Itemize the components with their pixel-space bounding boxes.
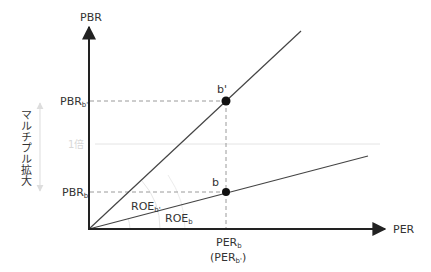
- x-tick-per-b: PERb: [216, 236, 242, 250]
- y-axis-label: PBR: [80, 11, 102, 24]
- y-tick-pbr-b: PBRb: [62, 186, 89, 200]
- point-label-b-prime: b': [217, 83, 227, 96]
- ray-steep-b-prime: [89, 31, 301, 229]
- point-b: [222, 188, 230, 196]
- point-b-prime: [222, 97, 231, 106]
- angle-label-roe-b-prime: ROEb': [131, 200, 161, 214]
- pbr-per-diagram: 1倍 マルチプル拡大 PBR PER PBRb' PBRb PERb (PERb…: [0, 0, 431, 272]
- angle-label-roe-b: ROEb: [165, 212, 193, 226]
- angle-arc-roe-b: [128, 218, 130, 229]
- x-tick-per-b-prime: (PERb'): [210, 251, 246, 265]
- multiple-expansion-label: マルチプル拡大: [19, 109, 33, 186]
- point-label-b: b: [212, 176, 219, 189]
- x-axis-label: PER: [393, 223, 415, 236]
- reference-line-label: 1倍: [68, 138, 84, 150]
- y-tick-pbr-b-prime: PBRb': [60, 95, 88, 109]
